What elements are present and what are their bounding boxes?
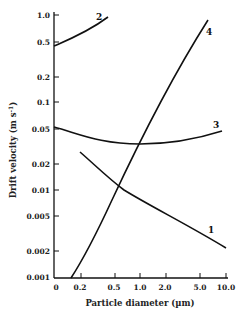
curve-label-4: 4 [206, 27, 212, 37]
svg-text:Drift velocity (m s-1): Drift velocity (m s-1) [7, 102, 18, 199]
curve-4 [71, 20, 208, 278]
svg-text:0.1: 0.1 [37, 98, 50, 107]
y-ticks [54, 15, 59, 251]
svg-text:0.5: 0.5 [37, 38, 50, 47]
svg-text:5.0: 5.0 [193, 283, 206, 292]
svg-text:0.2: 0.2 [37, 73, 50, 82]
y-axis-title: Drift velocity (m s-1) [7, 102, 18, 199]
svg-text:1.0: 1.0 [133, 283, 146, 292]
x-axis-title: Particle diameter (µm) [85, 298, 194, 308]
curve-1 [80, 152, 226, 248]
curve-label-2: 2 [96, 12, 102, 22]
svg-text:0.2: 0.2 [73, 283, 86, 292]
x-tick-labels: 0 0.2 0.5 1.0 2.0 5.0 10.0 [53, 283, 235, 292]
svg-text:0.002: 0.002 [27, 247, 51, 256]
svg-text:0.001: 0.001 [27, 273, 51, 282]
svg-text:1.0: 1.0 [37, 11, 50, 20]
y-tick-labels: 1.0 0.5 0.2 0.1 0.05 0.02 0.01 0.005 0.0… [27, 11, 51, 282]
svg-text:2.0: 2.0 [158, 283, 171, 292]
svg-text:0.5: 0.5 [107, 283, 120, 292]
svg-text:0.01: 0.01 [32, 186, 50, 195]
x-ticks [81, 273, 226, 278]
svg-text:0.005: 0.005 [27, 212, 51, 221]
svg-text:0.05: 0.05 [32, 125, 50, 134]
curve-3 [54, 127, 222, 144]
curve-label-1: 1 [208, 225, 214, 235]
chart: 1.0 0.5 0.2 0.1 0.05 0.02 0.01 0.005 0.0… [0, 0, 242, 317]
svg-text:10.0: 10.0 [217, 283, 235, 292]
svg-text:0.02: 0.02 [32, 160, 50, 169]
svg-text:0: 0 [53, 283, 58, 292]
curve-label-3: 3 [213, 120, 219, 130]
